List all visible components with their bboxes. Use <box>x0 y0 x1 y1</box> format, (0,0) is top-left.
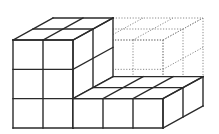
cube-diagram-canvas <box>0 0 219 134</box>
solid-cubes <box>13 18 203 128</box>
front-face <box>73 99 163 128</box>
cube-diagram <box>0 0 219 134</box>
